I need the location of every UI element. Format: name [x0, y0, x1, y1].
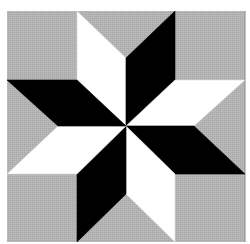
star-quilt-block	[0, 0, 250, 244]
